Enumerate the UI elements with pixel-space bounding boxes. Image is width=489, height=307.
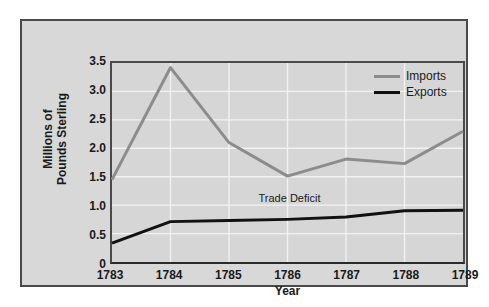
legend-label: Exports [406,85,447,99]
y-tick-label: 2.0 [72,142,106,154]
x-tick-label: 1789 [442,268,488,282]
y-axis-title: Millions of Pounds Sterling [41,79,69,199]
legend-line-icon [374,75,400,78]
y-axis-title-line-2: Pounds Sterling [55,79,69,199]
y-tick-label: 3.5 [72,55,106,67]
x-tick-label: 1783 [87,268,133,282]
x-tick-label: 1785 [205,268,251,282]
chart-panel: Millions of Pounds Sterling 00.51.01.52.… [20,19,468,287]
chart-figure: Millions of Pounds Sterling 00.51.01.52.… [0,0,489,307]
legend-item-exports[interactable]: Exports [374,84,464,100]
y-tick-label: 3.0 [72,84,106,96]
x-tick-label: 1786 [265,268,311,282]
x-tick-label: 1784 [146,268,192,282]
y-axis-title-line-1: Millions of [41,79,55,199]
x-axis-title: Year [110,284,465,298]
x-tick-label: 1787 [324,268,370,282]
y-tick-label: 2.5 [72,113,106,125]
trade-deficit-annotation: Trade Deficit [259,192,321,204]
x-tick-label: 1788 [383,268,429,282]
y-tick-label: 0.5 [72,229,106,241]
y-tick-label: 1.0 [72,200,106,212]
series-line-exports [112,210,463,243]
legend-label: Imports [406,69,446,83]
legend-line-icon [374,91,400,94]
chart-legend: ImportsExports [374,68,464,100]
y-tick-label: 1.5 [72,171,106,183]
y-axis-tick-labels: 00.51.01.52.02.53.03.5 [70,61,106,264]
legend-item-imports[interactable]: Imports [374,68,464,84]
